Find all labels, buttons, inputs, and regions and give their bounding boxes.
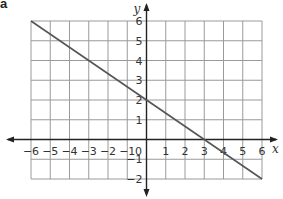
x-axis-arrow-left-icon bbox=[6, 137, 14, 143]
y-axis-arrow-up-icon bbox=[144, 3, 150, 11]
y-tick-label: 3 bbox=[136, 74, 143, 87]
tick-labels: −6−5−4−3−2−1123456−2−11234560xy bbox=[23, 2, 279, 186]
y-tick-label: −2 bbox=[126, 173, 142, 186]
x-tick-label: 3 bbox=[201, 145, 208, 158]
x-tick-label: 6 bbox=[259, 145, 266, 158]
y-tick-label: 1 bbox=[136, 114, 143, 127]
x-tick-label: −3 bbox=[81, 145, 97, 158]
y-tick-label: 6 bbox=[136, 15, 143, 28]
x-tick-label: −6 bbox=[23, 145, 39, 158]
x-axis-label: x bbox=[272, 142, 279, 156]
y-tick-label: 5 bbox=[136, 35, 143, 48]
x-tick-label: −5 bbox=[42, 145, 58, 158]
y-tick-label: 4 bbox=[136, 55, 143, 68]
x-tick-label: −4 bbox=[61, 145, 77, 158]
x-tick-label: 2 bbox=[182, 145, 189, 158]
y-axis-arrow-down-icon bbox=[144, 189, 150, 197]
y-axis-label: y bbox=[133, 2, 141, 16]
x-tick-label: 5 bbox=[239, 145, 246, 158]
origin-label: 0 bbox=[135, 145, 142, 158]
x-tick-label: −2 bbox=[100, 145, 116, 158]
line-chart: −6−5−4−3−2−1123456−2−11234560xy bbox=[0, 0, 283, 199]
x-tick-label: 1 bbox=[162, 145, 169, 158]
